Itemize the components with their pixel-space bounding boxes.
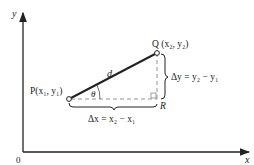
point-q [155, 51, 160, 56]
delta-x-label: Δx = x₂ − x₁ [88, 114, 135, 124]
point-p-label: P(x₁, y₁) [30, 86, 63, 97]
distance-diagram: y x 0 d θ P(x₁, y₁) Q (x₂, y₂) R Δx = x₂… [0, 0, 254, 165]
right-angle-marker [151, 93, 156, 98]
y-axis-label: y [11, 8, 17, 19]
angle-arc [97, 85, 100, 99]
angle-theta-label: θ [91, 89, 96, 99]
point-q-label: Q (x₂, y₂) [152, 39, 188, 50]
point-r-label: R [159, 101, 166, 111]
delta-x-brace [69, 103, 157, 110]
x-axis-label: x [244, 154, 250, 165]
delta-y-brace [161, 54, 168, 99]
segment-d [71, 54, 155, 98]
origin-label: 0 [16, 155, 21, 165]
point-p [67, 97, 72, 102]
delta-y-label: Δy = y₂ − y₁ [171, 72, 218, 82]
